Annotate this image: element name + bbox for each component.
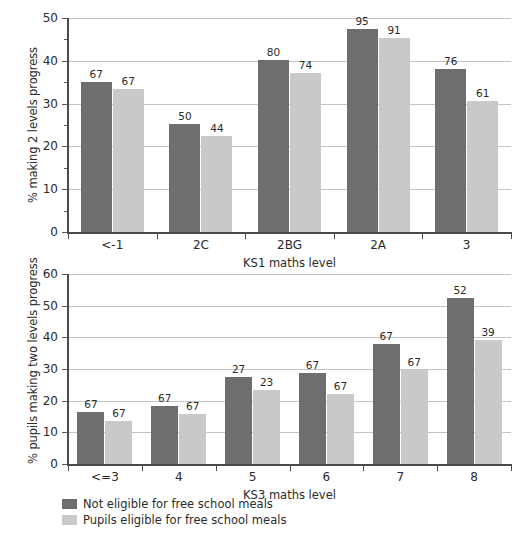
legend-swatch-icon-eligible [62,515,77,525]
legend-item-eligible: Pupils eligible for free school meals [62,512,286,528]
x-axis-tick-label: 2A [370,238,386,252]
bar-eligible [475,340,502,464]
y-axis-tick-label: 30 [0,363,58,375]
bar-not-eligible [299,373,326,464]
x-axis-tick-label: 4 [175,470,183,484]
y-axis-tick-label: 20 [0,140,58,152]
y-axis-tick-label: 20 [0,395,58,407]
x-axis-tick-label: 5 [249,470,257,484]
x-axis-line [67,232,512,234]
bar-value-label: 39 [481,327,494,338]
bar-value-label: 23 [260,377,273,388]
ks1-plot-area [68,18,511,232]
x-axis-tick [245,233,246,239]
gridline [68,306,511,307]
bar-eligible [253,390,280,464]
x-axis-tick-label: 3 [463,238,471,252]
gridline [68,274,511,275]
bar-not-eligible [347,29,378,232]
x-axis-tick [216,465,217,471]
bar-eligible [327,394,354,464]
ks1-chart: % making 2 levels progress KS1 maths lev… [0,0,518,260]
bar-value-label: 61 [476,88,489,99]
gridline [68,401,511,402]
bar-not-eligible [258,60,289,232]
bar-value-label: 50 [178,111,191,122]
x-axis-end-tick [511,465,512,471]
ks3-chart: % pupils making two levels progress KS3 … [0,258,518,534]
bar-value-label: 67 [380,331,393,342]
gridline [68,369,511,370]
y-axis-tick-label: 0 [0,458,58,470]
bar-value-label: 80 [267,47,280,58]
y-axis-tick-label: 50 [0,12,58,24]
x-axis-tick [437,465,438,471]
x-axis-tick [422,233,423,239]
x-axis-tick-label: 6 [323,470,331,484]
y-axis-tick-label: 60 [0,268,58,280]
bar-value-label: 52 [453,285,466,296]
y-axis-line [67,274,69,465]
bar-not-eligible [81,82,112,232]
bar-value-label: 67 [90,69,103,80]
y-axis-tick-label: 30 [0,98,58,110]
bar-eligible [105,421,132,464]
legend-item-not-eligible: Not eligible for free school meals [62,496,286,512]
bar-value-label: 44 [210,123,223,134]
bar-value-label: 74 [299,60,312,71]
bar-eligible [467,101,498,232]
y-axis-line [67,18,69,233]
gridline [68,432,511,433]
legend-label-eligible: Pupils eligible for free school meals [83,512,286,528]
ks1-y-axis-title: % making 2 levels progress [26,18,40,232]
y-axis-tick-label: 10 [0,426,58,438]
bar-not-eligible [373,344,400,464]
bar-value-label: 67 [334,381,347,392]
chart-legend: Not eligible for free school meals Pupil… [62,496,286,528]
bar-value-label: 67 [122,76,135,87]
bar-value-label: 76 [444,56,457,67]
bar-value-label: 67 [158,393,171,404]
bar-value-label: 67 [408,357,421,368]
x-axis-tick-label: 8 [470,470,478,484]
bar-not-eligible [435,69,466,232]
legend-label-not-eligible: Not eligible for free school meals [83,496,273,512]
bar-eligible [179,414,206,464]
bar-not-eligible [225,377,252,464]
x-axis-tick-label: 2BG [277,238,302,252]
bar-value-label: 91 [387,25,400,36]
bar-value-label: 67 [306,360,319,371]
legend-swatch-icon-not-eligible [62,499,77,509]
bar-value-label: 67 [186,401,199,412]
x-axis-end-tick [68,233,69,239]
bar-not-eligible [447,298,474,464]
bar-eligible [290,73,321,232]
x-axis-tick-label: <-1 [101,238,123,252]
x-axis-end-tick [68,465,69,471]
bar-value-label: 27 [232,364,245,375]
x-axis-tick [142,465,143,471]
y-axis-tick-label: 50 [0,300,58,312]
bar-not-eligible [151,406,178,464]
y-axis-tick-label: 10 [0,183,58,195]
x-axis-tick-label: <=3 [91,470,119,484]
bar-eligible [113,89,144,232]
bar-not-eligible [169,124,200,232]
gridline [68,18,511,19]
bar-value-label: 95 [355,16,368,27]
y-axis-tick-label: 0 [0,226,58,238]
bar-value-label: 67 [84,399,97,410]
x-axis-tick-label: 2C [193,238,209,252]
gridline [68,337,511,338]
x-axis-tick [290,465,291,471]
bar-value-label: 67 [112,408,125,419]
y-axis-tick-label: 40 [0,55,58,67]
x-axis-tick [157,233,158,239]
y-axis-tick-label: 40 [0,331,58,343]
ks3-plot-area [68,274,511,464]
bar-eligible [379,38,410,232]
bar-eligible [401,370,428,464]
bar-eligible [201,136,232,232]
x-axis-tick [334,233,335,239]
bar-not-eligible [77,412,104,464]
